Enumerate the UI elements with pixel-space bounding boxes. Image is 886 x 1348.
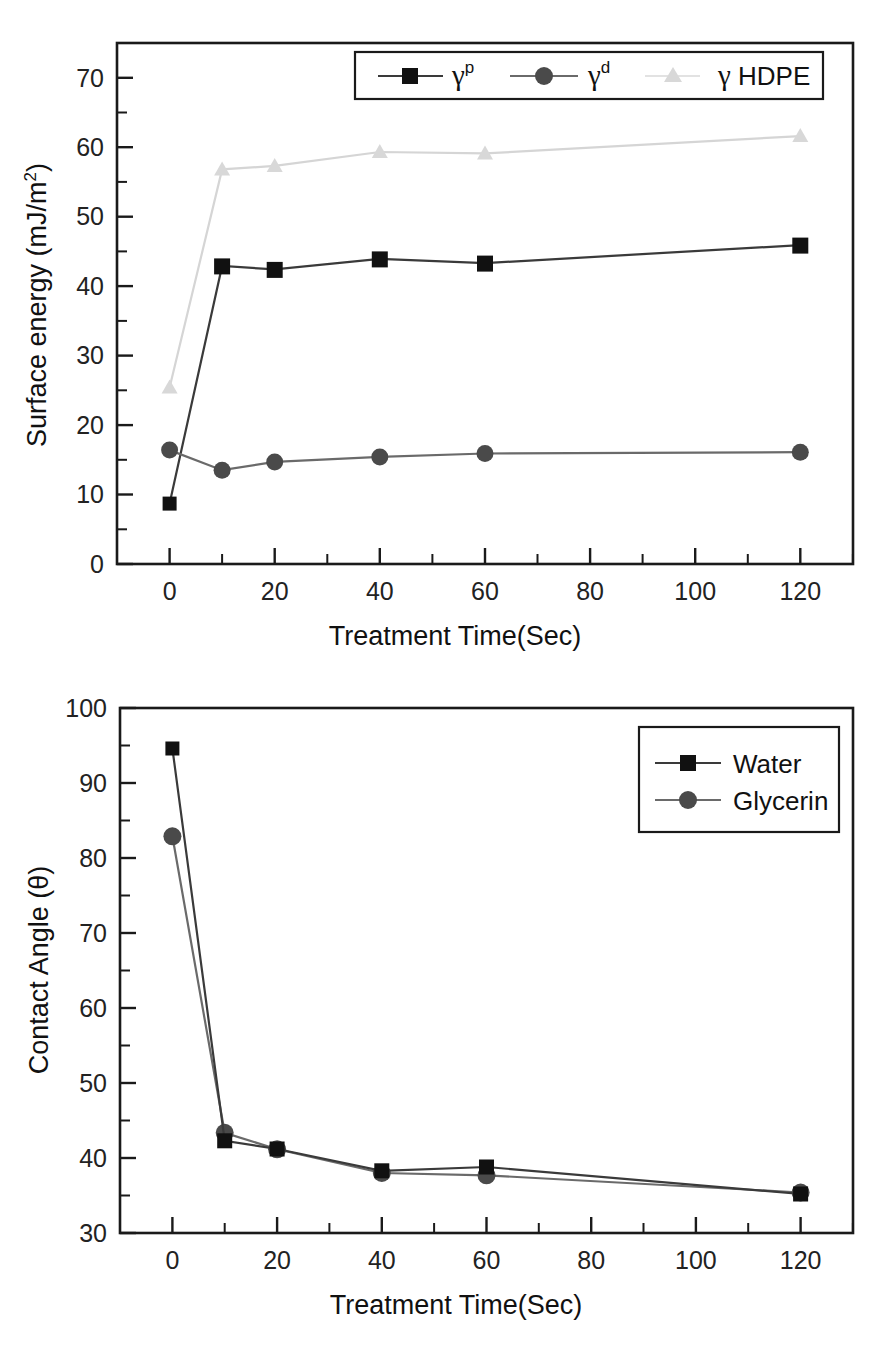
data-point-marker [163,497,177,511]
data-point-marker [214,462,231,479]
y-tick-label: 40 [76,272,104,300]
data-point-marker [266,453,283,470]
data-point-marker [477,256,493,272]
x-tick-label: 80 [576,577,604,605]
data-point-marker [214,258,230,274]
plot-frame [117,43,853,564]
data-point-marker [792,238,808,254]
data-point-marker [217,1133,232,1148]
y-axis-title: Surface energy (mJ/m2) [21,163,52,447]
y-tick-label: 60 [79,994,107,1022]
data-point-marker [161,442,178,459]
data-point-marker [270,1142,285,1157]
figure-page: 0 10 20 30 40 50 60 70 0 20 40 60 80 100… [0,0,886,1348]
y-tick-label: 40 [79,1144,107,1172]
x-tick-label: 0 [163,577,177,605]
square-icon [680,755,696,771]
x-tick-label: 80 [577,1246,605,1274]
y-axis-title-main: Surface energy (mJ/m [22,181,52,447]
y-tick-label: 100 [65,694,107,722]
data-point-marker [793,1187,808,1202]
y-tick-label: 70 [76,64,104,92]
legend-label-glycerin: Glycerin [733,786,828,816]
y-axis-title-sup: 2 [21,172,40,181]
surface-energy-svg: 0 10 20 30 40 50 60 70 0 20 40 60 80 100… [0,0,886,660]
legend-label-water: Water [733,749,802,779]
y-tick-label: 30 [79,1219,107,1247]
y-tick-label: 10 [76,480,104,508]
legend: γp γd γ HDPE [355,52,823,99]
x-tick-label: 40 [366,577,394,605]
x-axis-title: Treatment Time(Sec) [329,621,582,651]
y-tick-label: 80 [79,844,107,872]
x-tick-label: 0 [165,1246,179,1274]
data-point-marker [163,827,181,845]
data-point-marker [267,262,283,278]
square-icon [402,68,418,84]
x-tick-label: 120 [779,577,821,605]
y-tick-label: 30 [76,341,104,369]
y-tick-label: 90 [79,769,107,797]
y-axis-title: Contact Angle (θ) [24,866,54,1075]
legend-box [639,727,839,832]
x-tick-label: 60 [471,577,499,605]
data-point-marker [165,742,179,756]
y-tick-label: 70 [79,919,107,947]
surface-energy-chart: 0 10 20 30 40 50 60 70 0 20 40 60 80 100… [0,0,886,660]
y-tick-label: 60 [76,133,104,161]
data-point-marker [372,251,388,267]
svg-text:Surface energy (mJ/m2): Surface energy (mJ/m2) [21,163,52,447]
circle-icon [679,791,697,809]
y-tick-labels: 30 40 50 60 70 80 90 100 [65,694,107,1247]
x-tick-label: 40 [368,1246,396,1274]
x-tick-label: 20 [263,1246,291,1274]
x-axis-title: Treatment Time(Sec) [330,1290,583,1320]
contact-angle-chart: 30 40 50 60 70 80 90 100 0 20 40 60 80 1… [0,660,886,1348]
y-tick-label: 20 [76,411,104,439]
circle-icon [535,67,553,85]
y-axis-title-tail: ) [22,163,52,172]
x-tick-labels: 0 20 40 60 80 100 120 [163,577,822,605]
y-tick-label: 50 [76,202,104,230]
x-tick-label: 20 [261,577,289,605]
legend-label-gamma-hdpe: γ HDPE [717,59,810,91]
x-tick-label: 60 [473,1246,501,1274]
x-tick-labels: 0 20 40 60 80 100 120 [165,1246,821,1274]
data-point-marker [371,448,388,465]
data-point-marker [479,1160,494,1175]
data-point-marker [374,1163,389,1178]
x-tick-label: 100 [674,577,716,605]
legend: Water Glycerin [639,727,839,832]
data-point-marker [477,445,494,462]
data-point-marker [792,444,809,461]
y-tick-label: 50 [79,1069,107,1097]
y-tick-label: 0 [90,550,104,578]
contact-angle-svg: 30 40 50 60 70 80 90 100 0 20 40 60 80 1… [0,660,886,1348]
x-tick-label: 120 [780,1246,822,1274]
x-tick-label: 100 [675,1246,717,1274]
y-tick-labels: 0 10 20 30 40 50 60 70 [76,64,104,578]
